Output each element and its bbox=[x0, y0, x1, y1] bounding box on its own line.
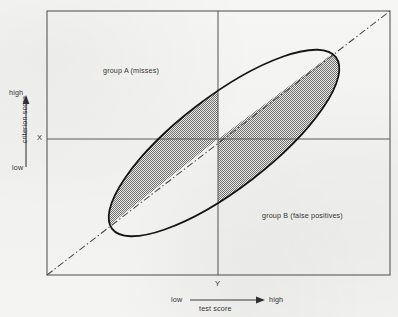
x-axis-title: test score bbox=[199, 305, 232, 312]
scatter-plot-diagram bbox=[0, 0, 398, 317]
figure-container: group A (misses) group B (false positive… bbox=[0, 0, 398, 317]
x-axis-high-label: high bbox=[269, 296, 283, 303]
group-b-annotation: group B (false positives) bbox=[262, 212, 343, 219]
x-axis-low-label: low bbox=[171, 296, 182, 303]
x-axis-arrow bbox=[190, 297, 265, 304]
test-cutoff-label-y: Y bbox=[215, 280, 220, 288]
y-axis-title: criterion score bbox=[21, 85, 28, 155]
criterion-cutoff-label-x: X bbox=[37, 134, 42, 142]
group-a-annotation: group A (misses) bbox=[103, 67, 159, 74]
y-axis-low-label: low bbox=[12, 164, 23, 171]
